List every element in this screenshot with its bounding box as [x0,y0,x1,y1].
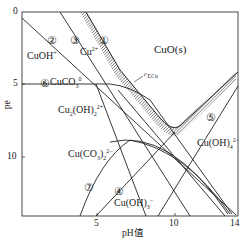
line-number-5: ⑤ [206,112,216,122]
line-number-2: ② [47,35,57,45]
line-number-6: ⑥ [40,78,50,88]
line-number-1: ① [99,35,109,45]
line-number-7: ⑦ [84,182,94,192]
line-number-4: ④ [114,186,124,196]
line-number-3: ③ [70,35,80,45]
